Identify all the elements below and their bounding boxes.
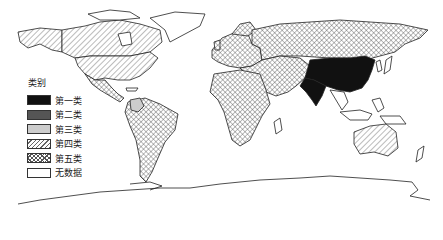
legend-label: 第四类	[55, 137, 82, 150]
region-australia	[354, 124, 398, 156]
legend-label: 第五类	[55, 152, 82, 165]
legend-item-category-3: 第三类	[27, 122, 82, 137]
legend-label: 无数据	[55, 166, 82, 179]
region-alaska	[18, 28, 62, 52]
legend-title: 类别	[28, 76, 82, 89]
legend-item-category-1: 第一类	[27, 93, 82, 108]
legend-label: 第三类	[55, 123, 82, 136]
legend-item-category-4: 第四类	[27, 137, 82, 152]
swatch-crosshatch	[27, 153, 51, 163]
legend-item-category-2: 第二类	[27, 108, 82, 123]
swatch-light-gray	[27, 124, 51, 134]
legend-label: 第二类	[55, 108, 82, 121]
region-antarctica	[18, 176, 430, 204]
legend-label: 第一类	[55, 94, 82, 107]
region-southeast-asia	[330, 90, 348, 110]
swatch-dark-gray	[27, 110, 51, 120]
region-russia	[252, 20, 428, 60]
swatch-empty	[27, 168, 51, 178]
map-legend: 类别 第一类 第二类 第三类 第四类 第五类 无数据	[27, 76, 82, 180]
swatch-diagonal-hatch	[27, 139, 51, 149]
region-africa	[210, 70, 270, 146]
legend-item-category-5: 第五类	[27, 151, 82, 166]
swatch-solid-black	[27, 95, 51, 105]
legend-item-no-data: 无数据	[27, 166, 82, 181]
